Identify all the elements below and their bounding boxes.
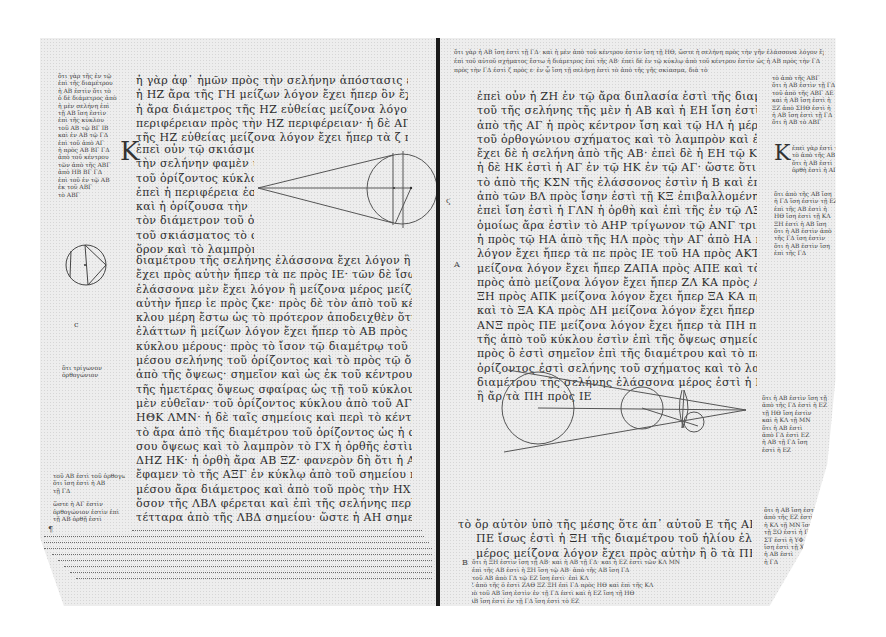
scholion-line: τῇ ΑΒ ὀρθῇ ἐστὶ xyxy=(53,515,125,522)
scholion-line: ὅτι ἡ ΑΒ ἐστὶ xyxy=(762,424,838,431)
scholion-line: ἡ ΚΛ τῇ ΜΝ ἴση xyxy=(764,521,832,528)
left-main-text-beside-diagram: ἐπεὶ οὖν τῷ σκιάσματι τὴν σελήνην φαμὲν … xyxy=(136,143,254,257)
text-line: ἡ δὲ ΗΚ ἐστὶ ἡ ΑΓ ἐν τῷ ΗΚ ἐν τῷ ΑΓ· ὥστ… xyxy=(477,161,757,175)
text-line: ἐλάττων ἢ μείζων λόγον ἔχει ἤπερ τὸ ΑΒ π… xyxy=(136,325,412,339)
scholion-line: ὅτι ἴση ἐστὶ ἡ ΑΒ xyxy=(53,479,125,486)
text-line: ὁμοίως ἄρα ἐστὶν τὸ ΑΗΡ τρίγωνον τῷ ΑΝΓ … xyxy=(477,219,757,233)
text-line: μείζονα λόγον ἔχει ἤπερ ΖΑΠΑ πρὸς ΑΠΕ κα… xyxy=(477,262,757,276)
scholion-line: τοῦ ΑΒ ἀπὸ ΓΔ τῷ ΕΖ ἴση ἐστὶ· ἐπὶ ΚΛ xyxy=(472,574,772,582)
left-main-text-top: ἡ γὰρ ἀφ᾽ ἡμῶν πρὸς τὴν σελήνην ἀπόστασι… xyxy=(136,74,408,145)
scholion-line: ἐπὶ τῆς ΑΒ ἐστὶ ἡ ΞΗ ἴση τῷ ΑΒ· ἀπὸ τῆς … xyxy=(472,566,772,574)
scholion-line: ἀπὸ τοῦ κέντρου xyxy=(58,153,118,160)
scholion-line xyxy=(76,578,432,579)
text-line: ἀπὸ τῆς ΑΓ ἡ πρὸς κέντρον ἴση καὶ τῷ ΗΛ … xyxy=(477,119,757,133)
scholion-line: ἡ ΑΒ ἴση ἐστὶ τῇ ΓΔ xyxy=(772,111,842,118)
text-line: ἀπὸ τῆς ὄψεως· σημεῖον καὶ ὡς ἐκ τοῦ κέν… xyxy=(136,368,412,382)
scholion-line xyxy=(64,566,432,567)
text-line: καὶ ἡ ὁρίζουσα τὴν xyxy=(136,200,254,214)
right-margin-initial-text: ἐπεὶ γὰρ ἐστὶ τῇ τὸ ἀπὸ τῆς ΑΒ ὅτι ἡ ΑΒ … xyxy=(792,144,844,174)
scholion-line: καὶ ἡ ΑΒ ἴση ἐστὶ ἡ xyxy=(772,96,842,103)
text-line: τοῦ ὁρίζοντος κύκλου xyxy=(136,172,254,186)
scholion-line: ὅτι ἡ ΑΒ ἐστὶν τῇ ΓΔ xyxy=(772,81,842,88)
text-line: ἐλάσσονα μὲν ἔχει λόγον ἢ μείζονα μέρος … xyxy=(136,283,412,297)
text-line: ΠΕ ἴσως ἐστὶ ἡ ΞΗ τῆς διαμέτρου τοῦ ἡλίο… xyxy=(458,532,752,546)
text-line: κλου μέρη ἔστω ὡς τὸ πρότερον ἀποδειχθὲν… xyxy=(136,311,412,325)
text-line: σου ὄψεως καὶ τὸ λαμπρὸν τὸ ΓΧ ἡ ὀρθῆς ἐ… xyxy=(136,440,412,454)
right-page: ὅτι γὰρ ἡ ΑΒ ἴση ἐστὶ τῇ ΓΔ· καὶ ἡ μὲν ἀ… xyxy=(440,38,852,606)
text-line: κύκλου μέρους· πρὸς τὸ ἴσον τῷ διαμέτρῳ … xyxy=(136,340,412,354)
scholion-line: ὅτι ἡ ΑΒ ἐστὶν ἀπὸ xyxy=(774,227,844,234)
scholion-line: ΗΘ ἴση ἐστὶ τῇ ΚΛ xyxy=(774,212,844,219)
scholion-line xyxy=(70,572,432,573)
scholion-line: τὸ ΑΒΓ xyxy=(58,191,118,198)
scholion-line: ἡ ΑΒ ἐστὶ xyxy=(764,550,832,557)
scholion-line: ἐπὶ τῆς κύκλου xyxy=(58,116,118,123)
scholion-line: ὀρθὴ ἐστὶ ἡ ΑΓ xyxy=(792,166,844,173)
text-line: ἀπὸ τῶν ΒΛ πρὸς ἴσην ἐστὶ τῇ ΚΞ ἐπιβαλλο… xyxy=(477,190,757,204)
scholion-line xyxy=(44,542,429,543)
scholion-line: ὀρθογώνιον ἐστὶν ἐπὶ xyxy=(53,508,125,515)
text-line: ἐπεὶ ἡ περιφέρεια ἐστὶν xyxy=(136,186,254,200)
scholion-line: τοῦ ἀπὸ τῆς ΑΒΓ ΔΕ xyxy=(772,89,842,96)
scholion-line: ἡ ΓΔ xyxy=(764,558,832,565)
text-line: ἐπεὶ οὖν ἡ ΖΗ ἐν τῷ ἄρα διπλασία ἐστὶ τῆ… xyxy=(477,90,757,104)
scholion-line: ὅτι ἡ ΑΒ ἐστὶ xyxy=(792,159,844,166)
scholion-line xyxy=(58,560,432,561)
scholion-line: ὅτι ἡ ΑΒ ἴση ἐστὶ τῇ ΓΔ xyxy=(764,506,832,513)
text-line: ΗΘΚ ΛΜΝ· ἡ δὲ ταῖς σημείοις καὶ περὶ τὸ … xyxy=(136,411,412,425)
scholion-line: ἡ ΑΒ ἐστὶν ὅτι τὸ xyxy=(58,87,118,94)
text-line: ἔχει δὲ ἡ σελήνη ἀπὸ τῆς ΑΒ· ἐπεὶ δὲ ἡ Ε… xyxy=(477,147,757,161)
text-line: τοῦ σκιάσματος τὸ σχῆμα xyxy=(136,229,254,243)
scholion-line: ὁ δὲ διάμετρος ἀπὸ xyxy=(58,94,118,101)
scholion-line xyxy=(44,548,432,549)
text-line: μὲν εὐθεῖαν· τοῦ ὁρίζοντος κύκλου ἀπὸ το… xyxy=(136,397,412,411)
scholion-line xyxy=(132,530,422,531)
left-margin-scholia-top: ὅτι γὰρ τῆς ἐν τῷ ἐπὶ τῆς διαμέτρου ἡ ΑΒ… xyxy=(58,72,118,198)
scholion-line: ΣΤ ἐστὶ ἡ ΥΦ xyxy=(764,536,832,543)
right-margin-scholia-top: τὸ ἀπὸ τῆς ΑΒΓ ὅτι ἡ ΑΒ ἐστὶν τῇ ΓΔ τοῦ … xyxy=(772,74,842,126)
text-line: αὐτὴν ἤπερ ἰε πρὸς ζκε· πρὸς δὲ τὸν ἀπὸ … xyxy=(136,297,412,311)
text-line: ΞΗ πρὸς ΑΠΚ μείζονα λόγον ἔχει ἤπερ ΞΑ Κ… xyxy=(477,290,757,304)
scholion-line: ἀπὸ τῆς ΓΔ ἐστὶ ἡ ΕΖ xyxy=(762,401,838,408)
text-line: πρὸς ἀπὸ μείζονα λόγον ἔχει ἤπερ ΖΛ ΚΑ π… xyxy=(477,276,757,290)
text-line: τῆς ἡμετέρας ὄψεως σφαίρας ὡς τῇ τοῦ κύκ… xyxy=(136,383,412,397)
scholion-line: ἐπὶ τοῦ αὐτοῦ σχήματος ἔστω ἡ διάμετρος … xyxy=(454,56,824,65)
left-footer-scholia xyxy=(44,530,434,584)
scholion-line: τῇ ΗΘ ἴση ἐστὶν xyxy=(762,409,838,416)
text-line: περιφέρειαν πρὸς τὴν ΗΖ περιφέρειαν· ἡ δ… xyxy=(136,117,408,131)
scholion-line: τῆς ΓΔ ἴση ἐστὶν xyxy=(774,234,844,241)
scholion-line: ἐπὶ τοῦ ἐν τῷ ΑΒ xyxy=(58,176,118,183)
scholion-line: ἀπὸ τῆς ΕΖ ἐστὶ ἡ ΗΘ xyxy=(764,513,832,520)
scholion-line: ὥστε ἡ ΑΓ ἐστὶν xyxy=(53,500,125,507)
scholion-line: τῇ ΓΔ xyxy=(53,487,125,494)
right-margin-scholia-bottom: ὅτι ἡ ΑΒ ἴση ἐστὶ τῇ ΓΔ ἀπὸ τῆς ΕΖ ἐστὶ … xyxy=(764,506,832,565)
text-line: τέτταρα ἀπὸ τῆς ΛΒΔ σημείου· ὥστε ἡ ΑΗ σ… xyxy=(136,511,412,525)
text-line: τὴν σελήνην φαμὲν ὑπὸ xyxy=(136,157,254,171)
scholion-line: ἀπὸ ΓΔ ἐστὶ ΕΖ xyxy=(762,431,838,438)
left-page: ὅτι γὰρ τῆς ἐν τῷ ἐπὶ τῆς διαμέτρου ἡ ΑΒ… xyxy=(40,38,438,606)
scholion-line: τοῦ ΑΒ ἐστὶ τοῦ ὀρθογωνίου xyxy=(53,472,125,479)
inscribed-triangle-circle-diagram xyxy=(66,241,110,289)
scholion-line: ἐπεὶ γὰρ ἐστὶ τῇ xyxy=(792,144,844,151)
left-margin-scholia-middle: ὅτι τρίγωνον ὀρθογώνιον xyxy=(62,364,122,379)
text-line: τὸ ἄρα ἀπὸ τῆς διαμέτρου τοῦ ὁρίζοντος ὡ… xyxy=(136,426,412,440)
scholion-line: ἀπὸ ΗΒ ΒΓ ΓΔ xyxy=(58,168,118,175)
sun-earth-moon-cone-diagram xyxy=(498,364,748,464)
text-line: λόγον ἔχει ἤπερ τὰ πε πρὸς ΙΕ τοῦ ΗΑ πρὸ… xyxy=(477,247,757,261)
scholion-line: ὅτι τρίγωνον xyxy=(62,364,122,371)
scholion-line: τῇ ΑΒ ἴση ἐστὶν xyxy=(58,109,118,116)
scholion-line: ὅτι γὰρ τῆς ἐν τῷ xyxy=(58,72,118,79)
scholion-line: ὅτι ἡ ΑΒ ἐστὶν ἴση τῇ xyxy=(762,394,838,401)
text-line: τὸ ἀπὸ τῆς ΚΣΝ τῆς ἐλάσσονος ἐστὶν ἡ Β κ… xyxy=(477,176,757,190)
scholion-line: ἐστὶ ἡ ΕΖ xyxy=(762,446,838,453)
right-margin-scholia-lower: ὅτι ἡ ΑΒ ἐστὶν ἴση τῇ ἀπὸ τῆς ΓΔ ἐστὶ ἡ … xyxy=(762,394,838,453)
margin-mark: c xyxy=(74,320,78,329)
right-footer-scholia: ὅτι ἡ ΞΗ ἐστὶν ἴση τῇ ΑΒ· καὶ ἡ ΑΒ τῇ ΓΔ… xyxy=(472,558,772,605)
scholion-line: ἐπὶ τῆς ΓΔ xyxy=(774,249,844,256)
text-line: τοῦ τῆς σελήνης τῆς μὲν ἡ ΑΒ καὶ ἡ ΕΗ ἴσ… xyxy=(477,104,757,118)
text-line: πρὸς ὃ ἐστὶ σημεῖον ἐπὶ τῆς διαμέτρου κα… xyxy=(477,347,757,361)
scholion-line xyxy=(44,536,424,537)
scholion-line: τῶν ἀπὸ τῆς ΑΒΓ xyxy=(58,161,118,168)
scholion-line: ΝΞΖ ἀπὸ τῆς ὁ ἐστὶ ΖΑΘ ΞΖ ΞΗ ἐπὶ ΓΔ πρὸς… xyxy=(472,581,772,589)
scholion-line: ὀρθογώνιον xyxy=(62,371,122,378)
